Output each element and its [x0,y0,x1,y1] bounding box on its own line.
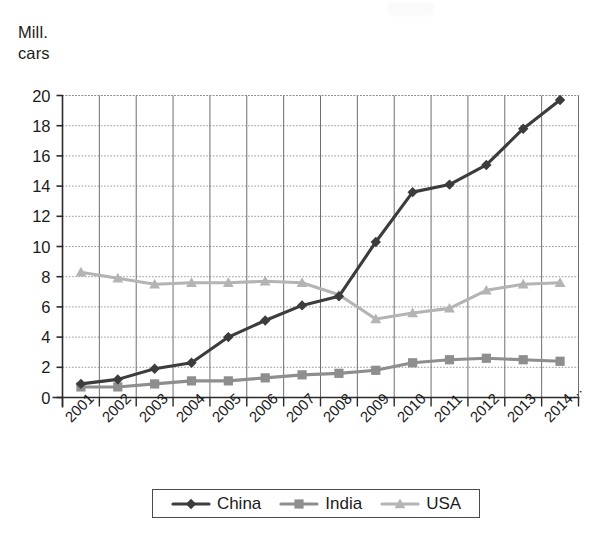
data-point-marker-square [297,370,306,379]
y-tick-label: 0 [11,390,51,407]
data-point-marker-square [482,354,491,363]
data-point-marker-diamond [186,498,196,508]
y-tick-label: 18 [11,118,51,135]
data-point-marker-diamond [260,315,270,325]
data-point-marker-square [295,499,304,508]
data-point-marker-square [187,376,196,385]
legend-label: USA [426,495,461,512]
plot-area: 02468101214161820 2001200220032004200520… [0,0,611,540]
legend-swatch-diamond-icon [171,496,211,512]
data-point-marker-square [371,366,380,375]
data-point-marker-square [519,355,528,364]
y-tick-label: 2 [11,359,51,376]
data-point-marker-square [408,358,417,367]
data-point-marker-square [334,369,343,378]
y-tick-label: 8 [11,269,51,286]
legend-swatch-triangle-icon [380,496,420,512]
data-point-marker-square [445,355,454,364]
y-tick-label: 16 [11,148,51,165]
chart-legend: ChinaIndiaUSA [152,489,480,518]
y-tick-label: 14 [11,178,51,195]
legend-label: India [325,495,362,512]
data-point-marker-square [261,373,270,382]
legend-label: China [217,495,261,512]
y-tick-label: 10 [11,239,51,256]
data-point-marker-diamond [297,300,307,310]
y-tick-label: 4 [11,329,51,346]
data-point-marker-square [150,379,159,388]
data-point-marker-diamond [149,364,159,374]
y-tick-label: 20 [11,88,51,105]
data-point-marker-square [555,357,564,366]
y-tick-label: 12 [11,208,51,225]
legend-entry-china[interactable]: China [162,495,270,512]
data-point-marker-square [224,376,233,385]
chart-canvas [0,0,611,540]
y-tick-label: 6 [11,299,51,316]
line-chart-figure: Mill. cars 02468101214161820 20012002200… [0,0,611,540]
legend-swatch-square-icon [279,496,319,512]
legend-entry-india[interactable]: India [270,495,371,512]
legend-entry-usa[interactable]: USA [371,495,470,512]
